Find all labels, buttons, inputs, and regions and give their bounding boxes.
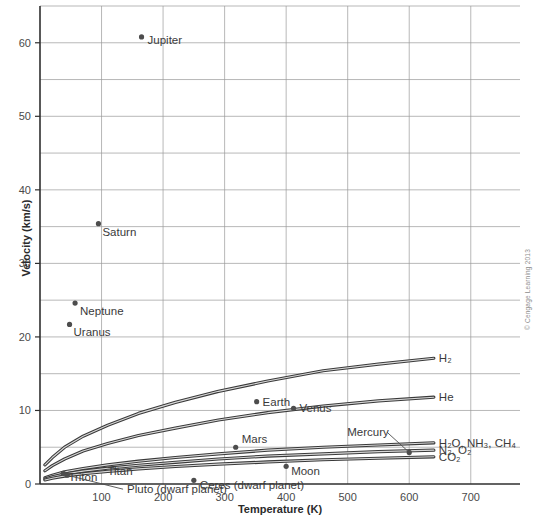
x-tick-label: 300 bbox=[215, 491, 233, 503]
data-point-saturn bbox=[96, 221, 101, 226]
data-point-mars bbox=[233, 445, 238, 450]
y-tick-label: 0 bbox=[25, 478, 31, 490]
y-tick-label: 60 bbox=[19, 37, 31, 49]
point-label-saturn: Saturn bbox=[102, 226, 136, 238]
x-tick-label: 500 bbox=[339, 491, 357, 503]
copyright-credit: © Cengage Learning 2013 bbox=[524, 190, 531, 330]
y-axis-title: Velocity (km/s) bbox=[20, 178, 32, 298]
point-label-venus: Venus bbox=[300, 402, 332, 414]
y-tick-label: 50 bbox=[19, 110, 31, 122]
series-label-He: He bbox=[439, 391, 454, 403]
body-points: JupiterSaturnNeptuneUranusEarthVenusMars… bbox=[61, 34, 412, 495]
curve-outline-H2 bbox=[45, 358, 434, 465]
point-label-earth: Earth bbox=[263, 396, 291, 408]
x-tick-label: 600 bbox=[400, 491, 418, 503]
point-label-titan: Titan bbox=[107, 465, 132, 477]
data-point-ceres-dwarf-planet bbox=[191, 478, 196, 483]
point-label-neptune: Neptune bbox=[80, 305, 123, 317]
data-point-uranus bbox=[67, 322, 72, 327]
curve-core-H2 bbox=[45, 358, 434, 465]
gas-curves: H₂HeH₂O, NH₃, CH₄N₂, O₂CO₂ bbox=[45, 352, 516, 480]
chart-plot-area: H₂HeH₂O, NH₃, CH₄N₂, O₂CO₂JupiterSaturnN… bbox=[0, 0, 552, 522]
point-label-uranus: Uranus bbox=[74, 326, 111, 338]
x-axis-title: Temperature (K) bbox=[150, 503, 410, 515]
data-point-venus bbox=[291, 406, 296, 411]
point-label-mars: Mars bbox=[242, 433, 268, 445]
point-label-moon: Moon bbox=[291, 465, 320, 477]
series-label-CO2: CO₂ bbox=[439, 451, 461, 463]
velocity-temperature-figure: H₂HeH₂O, NH₃, CH₄N₂, O₂CO₂JupiterSaturnN… bbox=[0, 0, 552, 522]
x-tick-label: 400 bbox=[277, 491, 295, 503]
x-tick-label: 700 bbox=[462, 491, 480, 503]
point-label-ceres-dwarf-planet: Ceres (dwarf planet) bbox=[200, 479, 304, 491]
data-point-neptune bbox=[72, 300, 77, 305]
y-tick-label: 20 bbox=[19, 331, 31, 343]
data-point-moon bbox=[284, 464, 289, 469]
data-point-jupiter bbox=[139, 34, 144, 39]
x-tick-label: 100 bbox=[92, 491, 110, 503]
y-tick-label: 10 bbox=[19, 404, 31, 416]
data-point-earth bbox=[254, 399, 259, 404]
series-label-H2: H₂ bbox=[439, 352, 452, 364]
point-label-jupiter: Jupiter bbox=[148, 34, 183, 46]
point-label-mercury: Mercury bbox=[347, 426, 389, 438]
x-tick-label: 200 bbox=[154, 491, 172, 503]
